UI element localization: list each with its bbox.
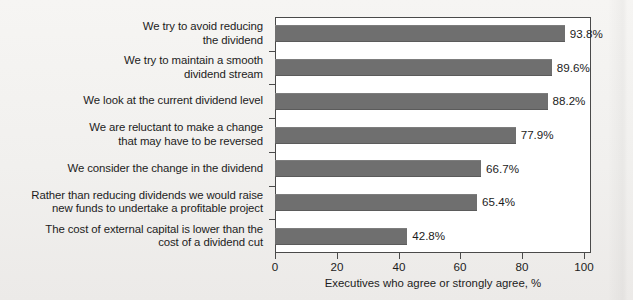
x-axis-tick-label: 20 <box>317 260 357 273</box>
y-axis-tick <box>269 51 276 52</box>
bar-value-label: 66.7% <box>486 162 519 175</box>
category-label: The cost of external capital is lower th… <box>7 219 263 253</box>
y-axis-tick <box>269 219 276 220</box>
category-label-line: We are reluctant to make a change <box>89 121 263 135</box>
x-axis-tick <box>584 253 585 259</box>
category-label-line: dividend stream <box>184 68 263 82</box>
y-axis-tick <box>269 152 276 153</box>
category-label: Rather than reducing dividends we would … <box>7 186 263 220</box>
bar <box>275 160 481 177</box>
y-axis-tick <box>269 186 276 187</box>
bar <box>275 59 552 76</box>
x-axis-tick <box>522 253 523 259</box>
bar <box>275 127 516 144</box>
y-axis-tick <box>269 118 276 119</box>
category-label: We try to maintain a smoothdividend stre… <box>7 51 263 85</box>
bar <box>275 194 477 211</box>
category-label-line: that may have to be reversed <box>118 135 263 149</box>
category-label-line: We consider the change in the dividend <box>68 162 263 176</box>
category-label-column: We try to avoid reducingthe dividendWe t… <box>8 17 270 253</box>
category-label-line: the dividend <box>203 34 263 48</box>
x-axis-tick-label: 80 <box>502 260 542 273</box>
category-label-line: We try to avoid reducing <box>143 20 263 34</box>
bar-value-label: 65.4% <box>482 195 515 208</box>
category-label: We consider the change in the dividend <box>7 152 263 186</box>
bar-value-label: 93.8% <box>570 27 603 40</box>
horizontal-bar-chart: We try to avoid reducingthe dividendWe t… <box>0 0 633 300</box>
x-axis-tick-label: 60 <box>440 260 480 273</box>
bar-value-label: 89.6% <box>557 61 590 74</box>
bar <box>275 25 565 42</box>
category-label: We try to avoid reducingthe dividend <box>7 17 263 51</box>
category-label-line: We look at the current dividend level <box>83 94 263 108</box>
bar-value-label: 42.8% <box>412 229 445 242</box>
x-axis-tick <box>399 253 400 259</box>
x-axis-tick <box>460 253 461 259</box>
x-axis-tick-label: 0 <box>255 260 295 273</box>
category-label-line: cost of a dividend cut <box>158 236 263 250</box>
bar <box>275 228 407 245</box>
x-axis-tick-label: 100 <box>564 260 604 273</box>
category-label-line: new funds to undertake a profitable proj… <box>52 202 263 216</box>
category-label-line: We try to maintain a smooth <box>124 54 263 68</box>
x-axis-title: Executives who agree or strongly agree, … <box>275 277 591 290</box>
y-axis-tick <box>269 84 276 85</box>
x-axis-tick <box>275 253 276 259</box>
bar-value-label: 88.2% <box>553 94 586 107</box>
x-axis-tick <box>337 253 338 259</box>
bar-value-label: 77.9% <box>521 128 554 141</box>
bar <box>275 93 548 110</box>
x-axis-tick-label: 40 <box>379 260 419 273</box>
category-label: We look at the current dividend level <box>7 84 263 118</box>
category-label-line: Rather than reducing dividends we would … <box>31 189 263 203</box>
category-label-line: The cost of external capital is lower th… <box>45 223 263 237</box>
category-label: We are reluctant to make a changethat ma… <box>7 118 263 152</box>
